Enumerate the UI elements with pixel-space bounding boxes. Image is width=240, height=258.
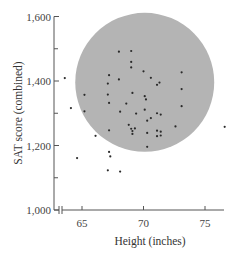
y-tick-label: 1,600 xyxy=(26,11,51,23)
data-point xyxy=(156,112,158,114)
data-point xyxy=(156,84,158,86)
data-point xyxy=(146,146,148,148)
data-point xyxy=(108,102,110,104)
data-point xyxy=(131,133,133,135)
data-point xyxy=(108,74,110,76)
shaded-circle xyxy=(75,13,214,152)
data-point xyxy=(119,171,121,173)
x-tick-label: 65 xyxy=(77,217,89,229)
data-point xyxy=(70,107,72,109)
data-point xyxy=(130,50,132,52)
data-point xyxy=(160,113,162,115)
data-point xyxy=(107,82,109,84)
data-point xyxy=(150,117,152,119)
data-point xyxy=(107,169,109,171)
data-point xyxy=(130,61,132,63)
data-point xyxy=(108,151,110,153)
data-point xyxy=(145,98,147,100)
data-point xyxy=(144,95,146,97)
data-point xyxy=(135,112,137,114)
data-point xyxy=(224,126,226,128)
data-point xyxy=(108,129,110,131)
data-point xyxy=(181,71,183,73)
data-point xyxy=(158,82,160,84)
data-point xyxy=(156,130,158,132)
data-point xyxy=(181,105,183,107)
data-point xyxy=(160,131,162,133)
data-point xyxy=(125,102,127,104)
x-tick-label: 75 xyxy=(200,217,212,229)
data-point xyxy=(109,155,111,157)
data-point xyxy=(156,135,158,137)
highlight-circle xyxy=(75,13,214,152)
data-point xyxy=(150,77,152,79)
data-point xyxy=(94,135,96,137)
data-point xyxy=(130,128,132,130)
data-point xyxy=(181,88,183,90)
x-tick-label: 70 xyxy=(138,217,150,229)
y-tick-label: 1,400 xyxy=(26,75,51,87)
data-point xyxy=(174,125,176,127)
data-point xyxy=(118,78,120,80)
data-point xyxy=(83,110,85,112)
data-point xyxy=(142,70,144,72)
y-tick-label: 1,200 xyxy=(26,140,51,152)
data-point xyxy=(76,157,78,159)
data-point xyxy=(107,93,109,95)
scatter-chart: 1,0001,2001,4001,600657075 Height (inche… xyxy=(0,0,240,258)
data-point xyxy=(130,66,132,68)
data-point xyxy=(131,130,133,132)
y-tick-label: 1,000 xyxy=(26,204,51,216)
y-axis-title: SAT score (combined) xyxy=(12,61,25,164)
data-point xyxy=(134,127,136,129)
data-point xyxy=(144,109,146,111)
data-point xyxy=(146,132,148,134)
data-point xyxy=(160,134,162,136)
data-point xyxy=(131,92,133,94)
x-axis-title: Height (inches) xyxy=(114,235,185,248)
data-point xyxy=(118,51,120,53)
data-point xyxy=(119,111,121,113)
data-point xyxy=(64,77,66,79)
data-point xyxy=(83,94,85,96)
data-point xyxy=(128,124,130,126)
data-point xyxy=(146,120,148,122)
